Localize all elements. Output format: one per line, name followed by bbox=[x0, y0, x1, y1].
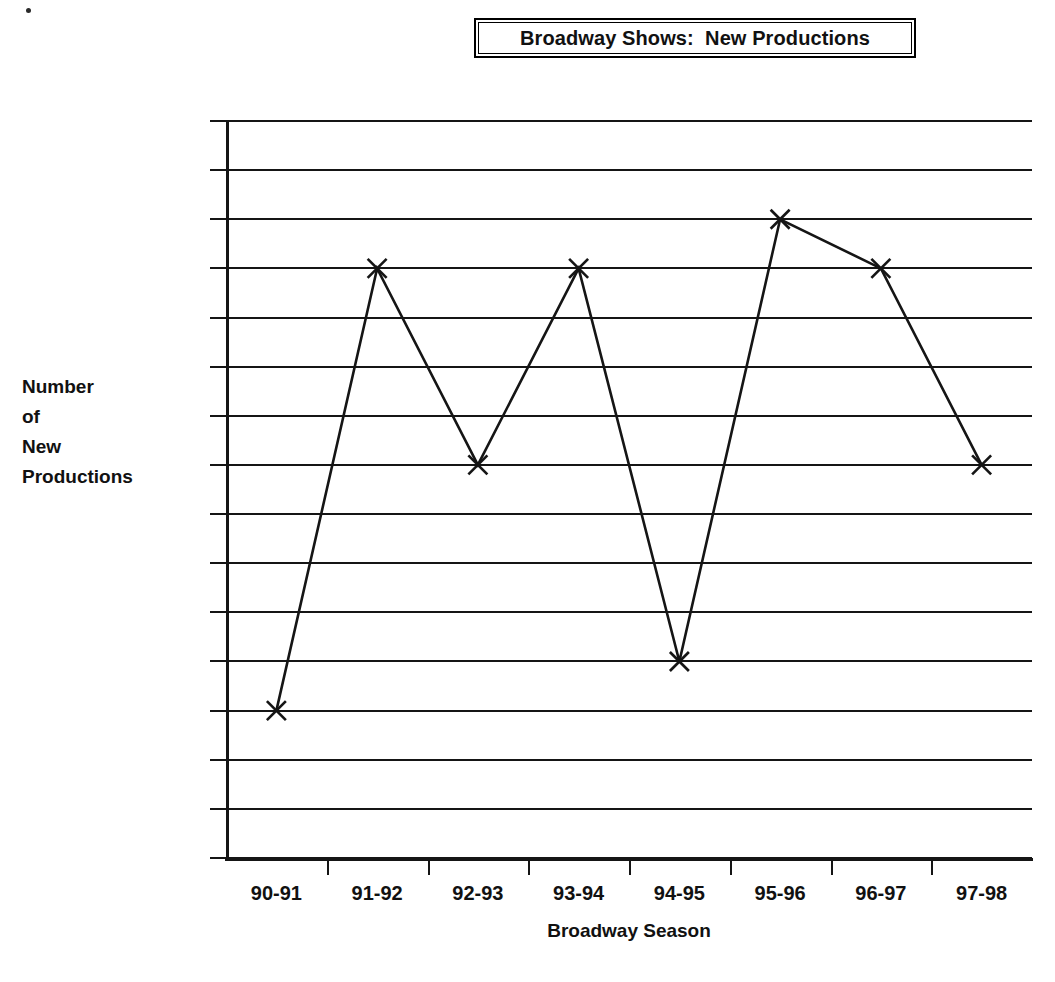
y-axis-tick bbox=[210, 857, 226, 859]
x-axis-tick bbox=[629, 858, 631, 875]
data-point-marker bbox=[368, 259, 387, 278]
y-axis-tick bbox=[210, 120, 226, 122]
data-point-marker bbox=[771, 210, 790, 229]
y-axis-tick bbox=[210, 759, 226, 761]
y-axis-tick bbox=[210, 218, 226, 220]
data-point-marker bbox=[871, 259, 890, 278]
x-axis-tick bbox=[428, 858, 430, 875]
x-tick-label: 94-95 bbox=[624, 883, 734, 903]
y-axis-tick bbox=[210, 710, 226, 712]
data-point-marker bbox=[267, 701, 286, 720]
y-axis-tick bbox=[210, 267, 226, 269]
x-tick-label: 97-98 bbox=[927, 883, 1037, 903]
y-axis-title: Number of New Productions bbox=[22, 372, 182, 492]
x-axis-title: Broadway Season bbox=[226, 920, 1032, 942]
x-axis-tick bbox=[528, 858, 530, 875]
chart-title-box: Broadway Shows: New Productions bbox=[474, 18, 916, 58]
y-axis-tick bbox=[210, 808, 226, 810]
y-axis-tick bbox=[210, 562, 226, 564]
chart-page: Broadway Shows: New Productions Number o… bbox=[0, 0, 1055, 982]
y-axis-tick bbox=[210, 611, 226, 613]
x-axis-tick bbox=[931, 858, 933, 875]
data-point-marker bbox=[670, 652, 689, 671]
y-axis-tick bbox=[210, 415, 226, 417]
data-point-marker bbox=[972, 455, 991, 474]
x-axis-tick bbox=[730, 858, 732, 875]
y-axis-tick bbox=[210, 464, 226, 466]
x-tick-label: 91-92 bbox=[322, 883, 432, 903]
x-tick-label: 96-97 bbox=[826, 883, 936, 903]
data-point-marker bbox=[569, 259, 588, 278]
chart-title: Broadway Shows: New Productions bbox=[476, 27, 914, 50]
data-series-line bbox=[226, 121, 1032, 858]
x-tick-label: 93-94 bbox=[524, 883, 634, 903]
plot-area: 40393837363534333231302928272625 90-9191… bbox=[226, 121, 1032, 858]
scan-artifact-dot bbox=[26, 8, 31, 13]
y-axis-tick bbox=[210, 513, 226, 515]
x-tick-label: 95-96 bbox=[725, 883, 835, 903]
y-axis-tick bbox=[210, 660, 226, 662]
x-tick-label: 92-93 bbox=[423, 883, 533, 903]
x-axis-tick bbox=[327, 858, 329, 875]
y-axis-tick bbox=[210, 169, 226, 171]
series-polyline bbox=[276, 219, 981, 710]
data-point-marker bbox=[468, 455, 487, 474]
y-axis-tick bbox=[210, 317, 226, 319]
x-axis-tick bbox=[831, 858, 833, 875]
y-axis-tick bbox=[210, 366, 226, 368]
x-tick-label: 90-91 bbox=[221, 883, 331, 903]
